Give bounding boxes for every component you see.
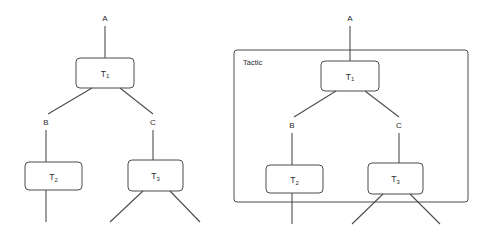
tactic-group-label: Tactic bbox=[243, 58, 262, 67]
edge-t1-to-b bbox=[48, 88, 92, 114]
edge-t3-out-left bbox=[352, 194, 383, 224]
edge-t3-out-right bbox=[410, 194, 440, 224]
right-panel: Tactic T1 T2 T3 bbox=[234, 14, 468, 225]
edge-label-a: A bbox=[347, 14, 353, 23]
edge-t1-to-b bbox=[294, 91, 336, 117]
left-panel: T1 T2 T3 A B C bbox=[25, 14, 200, 223]
edge-label-b: B bbox=[289, 121, 294, 130]
edge-label-c: C bbox=[150, 118, 156, 127]
edge-label-b: B bbox=[43, 118, 48, 127]
diagram-canvas: T1 T2 T3 A B C bbox=[0, 0, 484, 237]
edge-t3-out-left bbox=[110, 191, 143, 222]
edge-t1-to-c bbox=[365, 91, 399, 117]
edge-label-c: C bbox=[396, 121, 402, 130]
proof-tree-diagram: T1 T2 T3 A B C bbox=[0, 0, 484, 237]
edge-t1-to-c bbox=[120, 88, 153, 114]
edge-label-a: A bbox=[102, 14, 108, 23]
edge-t3-out-right bbox=[170, 191, 200, 222]
